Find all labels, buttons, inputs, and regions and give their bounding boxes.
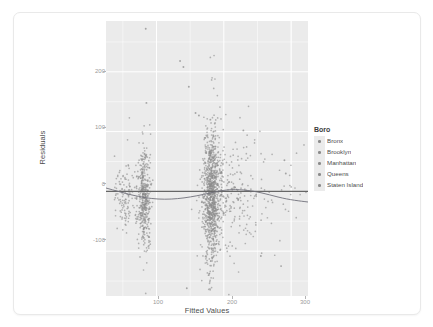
figure-card: 200 100 0 -100 Residuals 100 200 300 Fit… xyxy=(13,12,421,315)
point-icon xyxy=(318,140,321,143)
y-tick-label-neg100: -100 xyxy=(75,237,105,243)
y-tick-label-100: 100 xyxy=(75,124,105,130)
legend-key-bronx xyxy=(314,136,325,147)
legend-key-brooklyn xyxy=(314,147,325,158)
legend-item-manhattan[interactable]: Manhattan xyxy=(314,158,414,169)
legend-item-bronx[interactable]: Bronx xyxy=(314,136,414,147)
legend-key-queens xyxy=(314,169,325,180)
plot-panel-svg xyxy=(106,21,308,296)
x-tick-label-100: 100 xyxy=(143,299,173,305)
legend-item-queens[interactable]: Queens xyxy=(314,169,414,180)
residual-plot: 200 100 0 -100 Residuals 100 200 300 Fit… xyxy=(14,13,422,316)
legend-item-staten-island[interactable]: Staten Island xyxy=(314,180,414,191)
scatter-points xyxy=(114,28,307,296)
y-tick-mark-100 xyxy=(103,127,106,128)
legend-key-manhattan xyxy=(314,158,325,169)
legend-label-brooklyn: Brooklyn xyxy=(327,149,351,155)
point-icon xyxy=(318,162,321,165)
point-icon xyxy=(318,151,321,154)
y-tick-mark-0 xyxy=(103,183,106,184)
legend-key-staten-island xyxy=(314,180,325,191)
point-icon xyxy=(318,184,321,187)
legend-item-brooklyn[interactable]: Brooklyn xyxy=(314,147,414,158)
x-axis-title: Fitted Values xyxy=(106,306,308,315)
legend-label-bronx: Bronx xyxy=(327,138,343,144)
screenshot-root: 200 100 0 -100 Residuals 100 200 300 Fit… xyxy=(0,0,433,327)
legend-title: Boro xyxy=(314,126,414,133)
legend-label-queens: Queens xyxy=(327,171,349,177)
plot-panel xyxy=(106,21,308,296)
y-tick-mark-200 xyxy=(103,71,106,72)
y-tick-label-200: 200 xyxy=(75,68,105,74)
x-tick-label-200: 200 xyxy=(217,299,247,305)
legend-label-staten-island: Staten Island xyxy=(327,182,363,188)
legend: Boro Bronx Brooklyn xyxy=(314,126,414,191)
y-tick-label-0: 0 xyxy=(75,181,105,187)
y-axis-title: Residuals xyxy=(38,108,47,188)
x-tick-label-300: 300 xyxy=(290,299,320,305)
point-icon xyxy=(318,173,321,176)
legend-label-manhattan: Manhattan xyxy=(327,160,356,166)
y-tick-mark-neg100 xyxy=(103,239,106,240)
